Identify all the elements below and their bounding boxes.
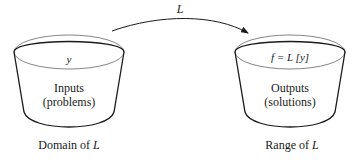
diagram-canvas: L y Inputs (problems) Domain of L f = L … [0,0,359,162]
range-caption: Range of L [242,138,342,153]
range-caption-var: L [312,138,319,152]
domain-top-label: y [59,53,79,65]
domain-caption-var: L [93,138,100,152]
domain-caption: Domain of L [19,138,119,153]
domain-body-line1: Inputs [34,81,104,96]
domain-body-line2: (problems) [34,95,104,110]
range-caption-text: Range of [265,138,312,152]
mapping-arrow [112,18,248,33]
range-body-line2: (solutions) [250,95,330,110]
domain-caption-text: Domain of [38,138,93,152]
range-top-label: f = L [y] [255,51,325,63]
arrow-label: L [170,2,190,17]
range-body-line1: Outputs [255,81,325,96]
